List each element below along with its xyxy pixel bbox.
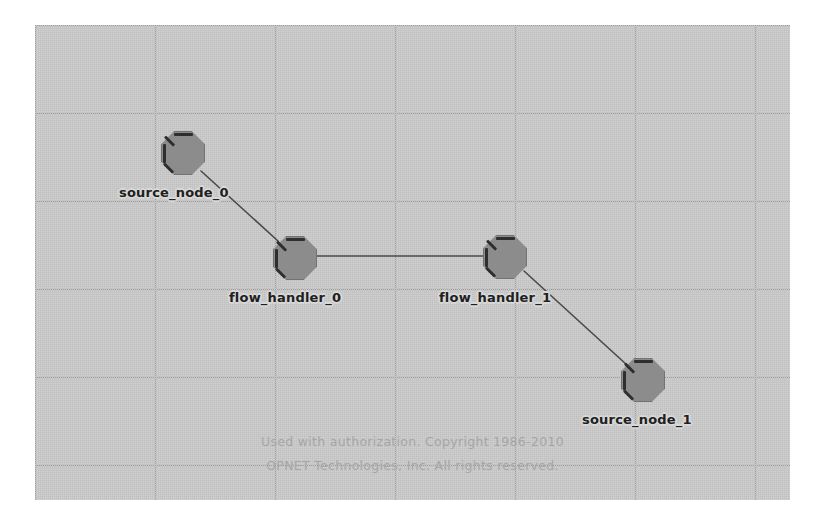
node-bevel bbox=[496, 237, 515, 240]
grid-line-vertical bbox=[635, 25, 636, 500]
node-bevel bbox=[275, 249, 278, 268]
node-bevel bbox=[485, 248, 488, 267]
grid-line-horizontal bbox=[35, 25, 790, 26]
link-source_node_0-flow_handler_0[interactable] bbox=[201, 171, 278, 241]
node-bevel bbox=[163, 144, 166, 163]
grid-line-horizontal bbox=[35, 289, 790, 290]
node-source_node_1[interactable] bbox=[621, 358, 665, 402]
node-bevel bbox=[634, 360, 653, 363]
node-label-source_node_0: source_node_0 bbox=[119, 185, 229, 200]
grid-line-vertical bbox=[395, 25, 396, 500]
link-flow_handler_1-source_node_1[interactable] bbox=[524, 271, 627, 365]
node-flow_handler_1[interactable] bbox=[483, 235, 527, 279]
watermark: Used with authorization. Copyright 1986-… bbox=[35, 430, 790, 478]
node-flow_handler_0[interactable] bbox=[273, 236, 317, 280]
grid-line-vertical bbox=[155, 25, 156, 500]
node-label-flow_handler_1: flow_handler_1 bbox=[439, 290, 551, 305]
node-bevel bbox=[286, 238, 305, 241]
watermark-line-1: Used with authorization. Copyright 1986-… bbox=[35, 430, 790, 454]
canvas-grid bbox=[35, 25, 790, 500]
canvas-texture bbox=[35, 25, 790, 500]
grid-line-horizontal bbox=[35, 465, 790, 466]
node-bevel bbox=[623, 371, 626, 390]
grid-line-vertical bbox=[35, 25, 36, 500]
grid-line-vertical bbox=[755, 25, 756, 500]
grid-line-horizontal bbox=[35, 201, 790, 202]
node-bevel bbox=[174, 133, 193, 136]
node-label-source_node_1: source_node_1 bbox=[582, 412, 692, 427]
network-topology-canvas[interactable]: source_node_0flow_handler_0flow_handler_… bbox=[35, 25, 790, 500]
node-label-flow_handler_0: flow_handler_0 bbox=[229, 290, 341, 305]
grid-line-horizontal bbox=[35, 377, 790, 378]
topology-links bbox=[35, 25, 790, 500]
node-source_node_0[interactable] bbox=[161, 131, 205, 175]
watermark-line-2: OPNET Technologies, Inc. All rights rese… bbox=[35, 454, 790, 478]
grid-line-horizontal bbox=[35, 113, 790, 114]
